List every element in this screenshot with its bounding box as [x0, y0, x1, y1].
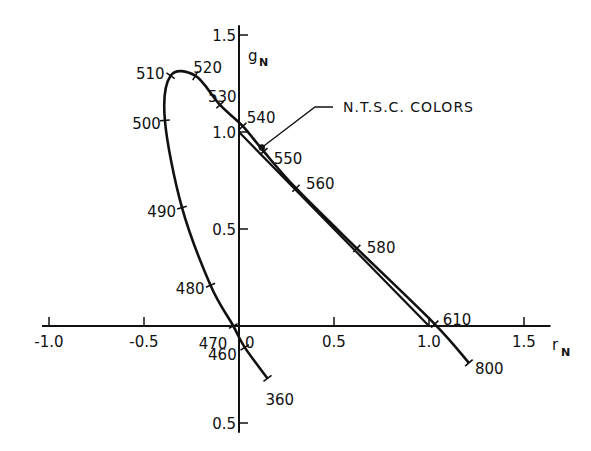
y-tick-label: 1.0	[212, 124, 236, 142]
wavelength-tick	[160, 120, 170, 121]
wavelength-label: 470	[199, 335, 228, 353]
x-tick-label: -1.0	[34, 333, 63, 351]
y-tick-label: 1.5	[212, 27, 236, 45]
y-axis-title: g	[248, 47, 258, 65]
wavelength-label: 580	[367, 239, 396, 257]
ntsc-line	[239, 132, 429, 326]
x-tick-label: 0.5	[322, 333, 346, 351]
x-tick-label: 1.5	[512, 333, 536, 351]
x-axis-title-sub: N	[561, 346, 570, 359]
wavelength-label: 360	[266, 391, 295, 409]
labels: -1.0-0.50.51.01.501.51.00.50.5gNrN360460…	[34, 27, 570, 433]
wavelength-label: 510	[136, 65, 165, 83]
x-tick-label: -0.5	[129, 333, 158, 351]
chromaticity-chart: -1.0-0.50.51.01.501.51.00.50.5gNrN360460…	[0, 0, 591, 451]
y-tick-label: 0.5	[212, 221, 236, 239]
wavelength-label: 490	[147, 203, 176, 221]
y-axis-title-sub: N	[259, 56, 268, 69]
x-axis-title: r	[552, 336, 559, 354]
wavelength-label: 520	[193, 59, 222, 77]
wavelength-label: 800	[475, 360, 504, 378]
wavelength-label: 550	[274, 150, 303, 168]
wavelength-label: 610	[443, 311, 472, 329]
x-tick-label: 1.0	[417, 333, 441, 351]
wavelength-label: 500	[132, 115, 161, 133]
wavelength-label: 560	[306, 175, 335, 193]
annotation-ntsc-colors: N.T.S.C. COLORS	[343, 99, 474, 115]
y-tick-label: 0.5	[212, 415, 236, 433]
wavelength-label: 540	[247, 109, 276, 127]
origin-label: 0	[245, 334, 255, 352]
wavelength-label: 480	[176, 280, 205, 298]
wavelength-label: 530	[208, 88, 237, 106]
